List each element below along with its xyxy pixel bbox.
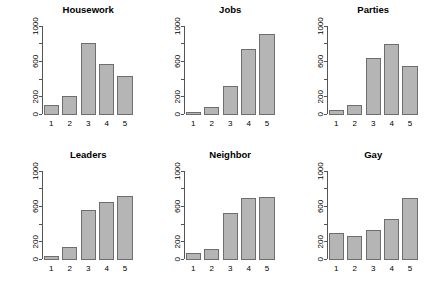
chart-panel-parties: Parties0200600100012345 — [285, 0, 427, 145]
bar — [403, 198, 417, 259]
y-tick-label: 200 — [173, 234, 182, 248]
x-tick-label: 1 — [191, 119, 196, 128]
y-tick-label: 600 — [315, 54, 324, 68]
panel-title: Gay — [364, 149, 383, 160]
chart-panel-gay: Gay0200600100012345 — [285, 145, 427, 289]
x-tick-label: 1 — [191, 264, 196, 273]
x-tick-label: 2 — [352, 119, 357, 128]
x-tick-label: 2 — [68, 264, 73, 273]
panel-title: Housework — [63, 4, 115, 15]
y-tick-label: 0 — [315, 112, 324, 117]
x-tick-label: 5 — [408, 264, 413, 273]
x-tick-label: 5 — [123, 264, 128, 273]
panel-title: Leaders — [70, 149, 107, 160]
x-tick-label: 4 — [104, 119, 109, 128]
y-tick-label: 200 — [173, 89, 182, 103]
bar-chart-svg: Leaders0200600100012345 — [0, 145, 142, 289]
bar — [205, 249, 219, 259]
x-tick-label: 3 — [86, 264, 91, 273]
y-tick-label: 1000 — [31, 161, 40, 179]
y-tick-label: 600 — [315, 199, 324, 213]
bar — [44, 106, 58, 114]
chart-panel-housework: Housework0200600100012345 — [0, 0, 142, 145]
panel-title: Neighbor — [210, 149, 252, 160]
x-tick-label: 2 — [352, 264, 357, 273]
bar — [242, 198, 256, 259]
bar-chart-svg: Jobs0200600100012345 — [142, 0, 284, 145]
bar — [223, 213, 237, 259]
x-tick-label: 5 — [408, 119, 413, 128]
x-tick-label: 4 — [247, 119, 252, 128]
chart-panel-jobs: Jobs0200600100012345 — [142, 0, 284, 145]
x-tick-label: 4 — [247, 264, 252, 273]
chart-panel-neighbor: Neighbor0200600100012345 — [142, 145, 284, 289]
bar — [223, 86, 237, 114]
x-tick-label: 5 — [265, 264, 270, 273]
y-tick-label: 1000 — [315, 17, 324, 35]
x-tick-label: 1 — [334, 264, 339, 273]
bar — [347, 105, 361, 114]
x-tick-label: 3 — [86, 119, 91, 128]
x-tick-label: 3 — [228, 119, 233, 128]
bar — [186, 253, 200, 259]
x-tick-label: 1 — [334, 119, 339, 128]
y-tick-label: 0 — [315, 256, 324, 261]
x-tick-label: 4 — [389, 119, 394, 128]
bar — [81, 210, 95, 259]
bar-chart-svg: Housework0200600100012345 — [0, 0, 142, 145]
y-tick-label: 0 — [173, 112, 182, 117]
bar — [366, 230, 380, 259]
x-tick-label: 3 — [228, 264, 233, 273]
y-tick-label: 600 — [173, 199, 182, 213]
x-tick-label: 3 — [371, 264, 376, 273]
bar — [99, 202, 113, 259]
y-tick-label: 1000 — [315, 161, 324, 179]
bar — [63, 97, 77, 115]
y-tick-label: 200 — [315, 234, 324, 248]
y-tick-label: 200 — [315, 89, 324, 103]
x-tick-label: 1 — [49, 119, 54, 128]
bar — [186, 112, 200, 114]
panel-title: Jobs — [219, 4, 241, 15]
bar-chart-svg: Parties0200600100012345 — [285, 0, 427, 145]
x-tick-label: 3 — [371, 119, 376, 128]
y-tick-label: 200 — [31, 234, 40, 248]
bar-chart-panel-grid: Housework0200600100012345Jobs02006001000… — [0, 0, 427, 289]
bar — [260, 197, 274, 259]
bar — [329, 233, 343, 259]
bar — [403, 66, 417, 114]
panel-title: Parties — [357, 4, 389, 15]
bar — [384, 45, 398, 115]
bar — [81, 44, 95, 115]
bar — [260, 34, 274, 114]
x-tick-label: 4 — [104, 264, 109, 273]
bar — [44, 256, 58, 259]
y-tick-label: 1000 — [31, 17, 40, 35]
x-tick-label: 4 — [389, 264, 394, 273]
y-tick-label: 600 — [31, 54, 40, 68]
y-tick-label: 600 — [31, 199, 40, 213]
y-tick-label: 200 — [31, 89, 40, 103]
y-tick-label: 600 — [173, 54, 182, 68]
bar — [99, 65, 113, 114]
bar — [384, 219, 398, 259]
bar — [347, 236, 361, 258]
bar-chart-svg: Neighbor0200600100012345 — [142, 145, 284, 289]
bar-chart-svg: Gay0200600100012345 — [285, 145, 427, 289]
bar — [118, 77, 132, 114]
bar — [63, 247, 77, 258]
x-tick-label: 1 — [49, 264, 54, 273]
bar — [205, 107, 219, 114]
chart-panel-leaders: Leaders0200600100012345 — [0, 145, 142, 289]
x-tick-label: 2 — [210, 264, 215, 273]
y-tick-label: 0 — [173, 256, 182, 261]
bar — [366, 58, 380, 114]
bar — [118, 196, 132, 259]
y-tick-label: 1000 — [173, 161, 182, 179]
y-tick-label: 0 — [31, 256, 40, 261]
x-tick-label: 5 — [265, 119, 270, 128]
bar — [242, 49, 256, 114]
bar — [329, 111, 343, 115]
y-tick-label: 1000 — [173, 17, 182, 35]
x-tick-label: 2 — [68, 119, 73, 128]
